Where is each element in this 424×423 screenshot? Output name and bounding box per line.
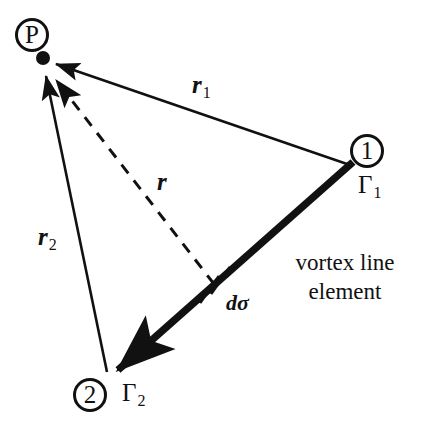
gamma-1-subscript: 1 bbox=[372, 184, 381, 201]
vector-label-r1: r1 bbox=[192, 72, 211, 101]
vector-r-symbol: r bbox=[157, 168, 167, 195]
vortex-line-caption: vortex line element bbox=[275, 248, 415, 307]
node-label-p: P bbox=[17, 22, 47, 47]
vortex-line-caption-line-2: element bbox=[275, 277, 415, 306]
circulation-label-gamma-2: Γ2 bbox=[122, 380, 145, 409]
gamma-2-subscript: 2 bbox=[136, 392, 145, 409]
vector-label-r2: r2 bbox=[38, 224, 57, 253]
vector-r2-subscript: 2 bbox=[48, 236, 57, 253]
vector-label-r: r bbox=[157, 169, 167, 194]
line-element-label-dsigma: dσ bbox=[226, 292, 249, 314]
field-point-dot bbox=[36, 51, 50, 65]
diagram-canvas bbox=[0, 0, 424, 423]
gamma-2-symbol: Γ bbox=[122, 379, 136, 406]
vector-r2-symbol: r bbox=[38, 223, 48, 250]
vortex-line-diagram: P 1 2 Γ1 Γ2 r1 r2 r dσ vortex line eleme… bbox=[0, 0, 424, 423]
vector-r1-subscript: 1 bbox=[202, 84, 211, 101]
gamma-1-symbol: Γ bbox=[358, 171, 372, 198]
node-label-2: 2 bbox=[75, 382, 105, 407]
vector-r1-symbol: r bbox=[192, 71, 202, 98]
vortex-line-caption-line-1: vortex line bbox=[275, 248, 415, 277]
node-label-1: 1 bbox=[352, 138, 382, 163]
circulation-label-gamma-1: Γ1 bbox=[358, 172, 381, 201]
